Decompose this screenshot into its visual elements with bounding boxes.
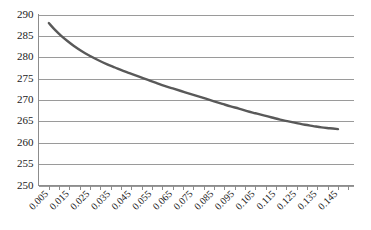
line-chart: 250255260265270275280285290 0.0050.0150.… [0, 0, 371, 230]
y-tick-label: 285 [17, 29, 34, 41]
y-tick-label: 275 [17, 72, 34, 84]
y-tick-label: 280 [17, 50, 34, 62]
y-tick-label: 270 [17, 93, 34, 105]
chart-container: 250255260265270275280285290 0.0050.0150.… [0, 0, 371, 230]
y-tick-label: 255 [17, 157, 34, 169]
y-tick-label: 250 [17, 179, 34, 191]
y-tick-label: 265 [17, 114, 34, 126]
y-tick-label: 260 [17, 136, 34, 148]
y-tick-label: 290 [17, 8, 34, 20]
y-axis-tick-labels: 250255260265270275280285290 [17, 8, 34, 191]
